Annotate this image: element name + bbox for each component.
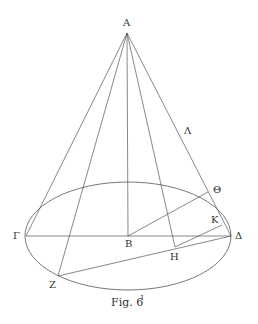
caption-text: Fig. 6 — [111, 296, 143, 309]
label-lambda: Λ — [183, 125, 192, 136]
line-a-delta — [127, 33, 231, 236]
caption-superscript: 1 — [140, 294, 144, 302]
label-z: Ζ — [49, 279, 56, 290]
label-delta: Δ — [235, 230, 242, 241]
line-z-delta — [58, 236, 231, 276]
geometry-figure: Α Λ Θ Κ Γ Β Δ Η Ζ Fig. 6 1 — [0, 0, 258, 324]
line-b-theta — [128, 192, 208, 236]
label-theta: Θ — [213, 184, 221, 195]
label-a: Α — [122, 17, 131, 28]
label-h: Η — [170, 251, 179, 262]
label-b: Β — [125, 238, 132, 249]
figure-caption: Fig. 6 1 — [111, 294, 144, 309]
line-a-z — [58, 33, 127, 276]
line-a-h — [127, 33, 175, 247]
line-a-gamma — [26, 33, 127, 236]
line-a-b — [127, 33, 128, 236]
label-gamma: Γ — [13, 230, 20, 241]
label-k: Κ — [211, 214, 219, 225]
